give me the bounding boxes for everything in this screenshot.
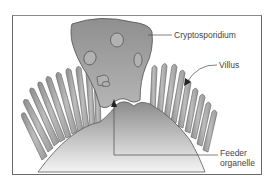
label-feeder-organelle: Feeder organelle [220, 148, 255, 168]
label-cryptosporidium: Cryptosporidium [174, 30, 236, 40]
label-feeder-line1: Feeder [220, 148, 255, 158]
label-feeder-line2: organelle [220, 158, 255, 168]
label-villus: Villus [219, 60, 239, 70]
